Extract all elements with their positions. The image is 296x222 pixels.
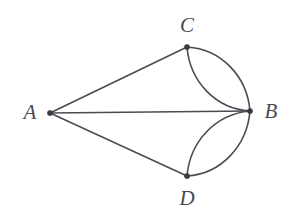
edge-d-b-outer-arc — [187, 111, 250, 176]
vertex-label-d: D — [179, 188, 194, 209]
vertex-b-dot — [247, 108, 252, 113]
graph-diagram: A B C D — [0, 0, 296, 222]
graph-canvas — [0, 0, 296, 222]
edge-a-d — [50, 113, 187, 176]
edge-a-b — [50, 111, 250, 113]
vertex-d-dot — [184, 173, 189, 178]
vertex-label-a: A — [24, 102, 37, 123]
vertex-label-b: B — [265, 101, 278, 122]
vertex-c-dot — [184, 44, 189, 49]
vertex-a-dot — [47, 110, 52, 115]
vertex-label-c: C — [180, 15, 194, 36]
edge-a-c — [50, 47, 187, 113]
